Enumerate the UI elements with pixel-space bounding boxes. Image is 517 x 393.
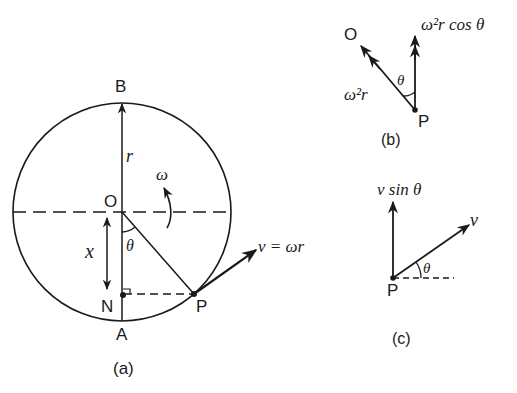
point-p-dot-c — [390, 275, 396, 281]
label-theta-b: θ — [397, 72, 405, 88]
label-p-c: P — [387, 281, 398, 300]
label-n: N — [101, 297, 113, 316]
velocity-arrow-a — [194, 250, 256, 294]
caption-a: (a) — [113, 359, 134, 378]
label-a: A — [116, 325, 128, 344]
label-centripetal: ω²r — [344, 85, 368, 104]
label-velocity-c: v — [470, 210, 478, 230]
panel-c: v sin θ v θ P (c) — [377, 180, 478, 347]
label-component-b: ω²r cos θ — [421, 15, 484, 34]
label-r: r — [126, 146, 134, 166]
centripetal-arrow-b-second-head — [369, 56, 380, 69]
label-x: x — [84, 240, 94, 262]
omega-rotation-arrow — [164, 188, 171, 228]
caption-c: (c) — [392, 330, 411, 347]
label-component-c: v sin θ — [377, 180, 421, 199]
theta-arc-a — [122, 227, 135, 232]
caption-b: (b) — [381, 131, 401, 148]
label-o-a: O — [104, 192, 117, 211]
label-p-b: P — [418, 112, 429, 131]
panel-b: O P θ ω²r ω²r cos θ (b) — [344, 15, 484, 148]
point-p-dot-b — [412, 107, 418, 113]
label-p-a: P — [196, 297, 207, 316]
point-n-dot — [120, 292, 126, 298]
centripetal-arrow-b — [361, 46, 415, 110]
label-theta-c: θ — [423, 260, 431, 276]
label-omega: ω — [156, 165, 168, 184]
theta-arc-c — [416, 262, 421, 278]
label-o-b: O — [344, 25, 357, 44]
label-b: B — [115, 77, 126, 96]
figure-canvas: B O r ω θ x N A P v = ωr (a) O P θ ω²r ω… — [0, 0, 517, 393]
label-velocity-a: v = ωr — [258, 237, 305, 256]
label-theta-a: θ — [126, 237, 134, 254]
panel-a: B O r ω θ x N A P v = ωr (a) — [13, 77, 305, 378]
velocity-arrow-c — [393, 225, 469, 278]
theta-arc-b — [403, 92, 415, 96]
